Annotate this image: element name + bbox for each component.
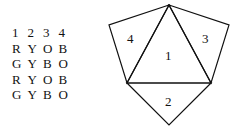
label-face-2: 2 (165, 94, 172, 109)
label-face-4: 4 (127, 31, 134, 46)
face-center (127, 5, 211, 83)
tetrahedron-net-diagram: 1 2 3 4 (0, 0, 242, 131)
face-right (169, 5, 229, 83)
label-face-1: 1 (165, 48, 172, 63)
label-face-3: 3 (202, 31, 209, 46)
face-left (109, 5, 169, 83)
